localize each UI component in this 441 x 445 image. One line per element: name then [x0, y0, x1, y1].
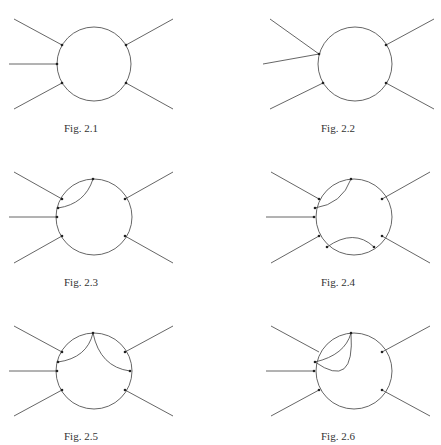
caption-fig-2-5: Fig. 2.5: [64, 430, 98, 442]
diagram-fig-2-5: [9, 326, 173, 416]
diagram-fig-2-3: [9, 172, 173, 263]
diagram-fig-2-4: [266, 172, 430, 263]
vertices: [56, 44, 388, 392]
caption-fig-2-3: Fig. 2.3: [64, 276, 98, 288]
diagram-fig-2-1: [9, 19, 173, 109]
caption-fig-2-6: Fig. 2.6: [321, 430, 355, 442]
diagram-fig-2-6: [266, 326, 430, 416]
diagram-fig-2-2: [263, 19, 434, 109]
caption-fig-2-1: Fig. 2.1: [64, 122, 98, 134]
feynman-diagrams: [0, 0, 441, 445]
caption-fig-2-4: Fig. 2.4: [321, 276, 355, 288]
caption-fig-2-2: Fig. 2.2: [321, 122, 355, 134]
